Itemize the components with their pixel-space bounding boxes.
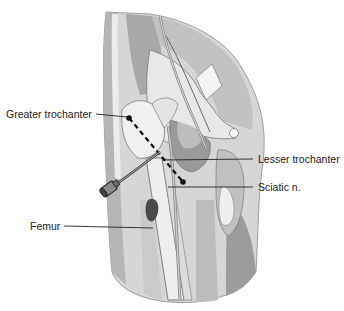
label-greater-trochanter: Greater trochanter bbox=[6, 108, 92, 120]
label-sciatic-nerve: Sciatic n. bbox=[258, 181, 301, 193]
label-lesser-trochanter: Lesser trochanter bbox=[258, 153, 340, 165]
sciatic-point-marker bbox=[180, 179, 186, 185]
greater-trochanter-marker bbox=[126, 115, 132, 121]
label-femur: Femur bbox=[30, 220, 60, 232]
